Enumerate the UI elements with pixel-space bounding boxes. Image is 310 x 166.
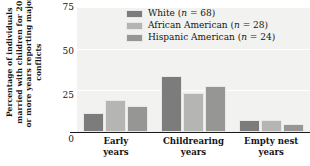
y-tick-75: 75 [50,3,74,12]
y-tick-0: 0 [50,135,74,144]
bar-african-american-empty-nest-years [261,120,282,132]
x-axis-line [70,132,310,133]
chart-legend: White (n = 68) African American (n = 28)… [126,9,275,42]
y-axis-title: Percentage of individuals married with c… [5,0,43,128]
x-label-early-years: Early years [77,136,155,158]
x-label-childrearing-years: Childrearing years [155,136,233,158]
x-label-empty-nest-years: Empty nest years [232,136,310,158]
legend-label-white: White (n = 68) [148,9,215,18]
x-label-empty-nest-years-line2: years [232,147,310,158]
legend-label-african-american-name: African American [148,20,228,30]
legend-label-hispanic-american-name: Hispanic American [148,32,235,42]
legend-swatch-hispanic-american [126,34,143,42]
bar-white-empty-nest-years [239,120,260,133]
legend-item-african-american: African American (n = 28) [126,21,275,30]
x-axis-category-labels: Early years Childrearing years Empty nes… [77,136,310,158]
bar-hispanic-american-childrearing-years [205,86,226,132]
bar-hispanic-american-early-years [127,106,148,132]
bar-white-childrearing-years [161,76,182,132]
y-tick-25: 25 [50,91,74,100]
legend-swatch-white [126,10,143,18]
bar-chart-figure: Percentage of individuals married with c… [0,0,310,166]
bar-white-early-years [83,113,104,132]
legend-item-white: White (n = 68) [126,9,275,18]
legend-swatch-african-american [126,22,143,30]
y-tick-50: 50 [50,47,74,56]
legend-label-hispanic-american: Hispanic American (n = 24) [148,33,275,42]
bar-african-american-early-years [105,100,126,133]
x-label-early-years-line2: years [77,147,155,158]
bar-hispanic-american-empty-nest-years [283,124,304,132]
x-label-childrearing-years-line1: Childrearing [155,136,233,147]
bar-african-american-childrearing-years [183,93,204,132]
y-axis-tick-labels: 75 50 25 0 [50,0,74,140]
legend-label-white-name: White [148,8,175,18]
x-label-empty-nest-years-line1: Empty nest [232,136,310,147]
x-label-early-years-line1: Early [77,136,155,147]
legend-label-african-american: African American (n = 28) [148,21,268,30]
x-label-childrearing-years-line2: years [155,147,233,158]
legend-item-hispanic-american: Hispanic American (n = 24) [126,33,275,42]
